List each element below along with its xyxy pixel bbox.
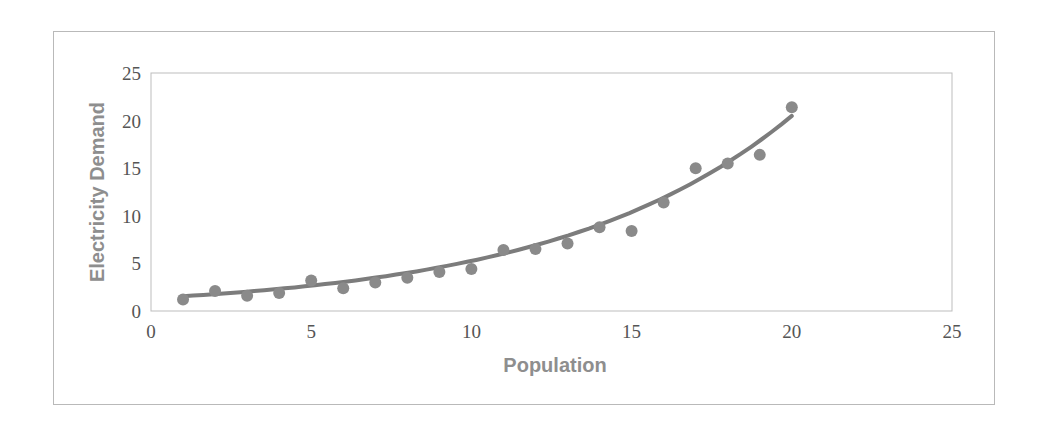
- data-point: [722, 157, 734, 169]
- data-point: [177, 294, 189, 306]
- x-tick-label: 20: [782, 321, 801, 342]
- x-tick-label: 15: [622, 321, 641, 342]
- data-point: [433, 266, 445, 278]
- y-tick-label: 10: [122, 206, 141, 227]
- data-point: [273, 287, 285, 299]
- data-point: [690, 162, 702, 174]
- data-point: [497, 244, 509, 256]
- x-axis-title: Population: [503, 354, 606, 376]
- data-point: [305, 275, 317, 287]
- data-point: [337, 282, 349, 294]
- x-axis-ticks: 0510152025: [146, 321, 961, 342]
- data-point: [594, 221, 606, 233]
- x-tick-label: 10: [462, 321, 481, 342]
- y-tick-label: 25: [122, 63, 141, 84]
- data-points: [177, 101, 798, 305]
- data-point: [529, 243, 541, 255]
- y-axis-title: Electricity Demand: [86, 102, 108, 282]
- y-axis-ticks: 0510152025: [122, 63, 141, 322]
- data-point: [562, 237, 574, 249]
- data-point: [241, 290, 253, 302]
- data-point: [369, 276, 381, 288]
- x-tick-label: 5: [306, 321, 316, 342]
- data-point: [209, 285, 221, 297]
- plot-area: [151, 73, 952, 311]
- y-tick-label: 15: [122, 158, 141, 179]
- x-tick-label: 0: [146, 321, 156, 342]
- scatter-chart: 0510152025 0510152025 Population Electri…: [0, 0, 1044, 421]
- y-tick-label: 5: [132, 253, 142, 274]
- y-tick-label: 0: [132, 301, 142, 322]
- data-point: [754, 149, 766, 161]
- x-tick-label: 25: [943, 321, 962, 342]
- data-point: [658, 196, 670, 208]
- y-tick-label: 20: [122, 111, 141, 132]
- data-point: [786, 101, 798, 113]
- data-point: [465, 263, 477, 275]
- data-point: [626, 225, 638, 237]
- trendline: [183, 116, 792, 296]
- data-point: [401, 272, 413, 284]
